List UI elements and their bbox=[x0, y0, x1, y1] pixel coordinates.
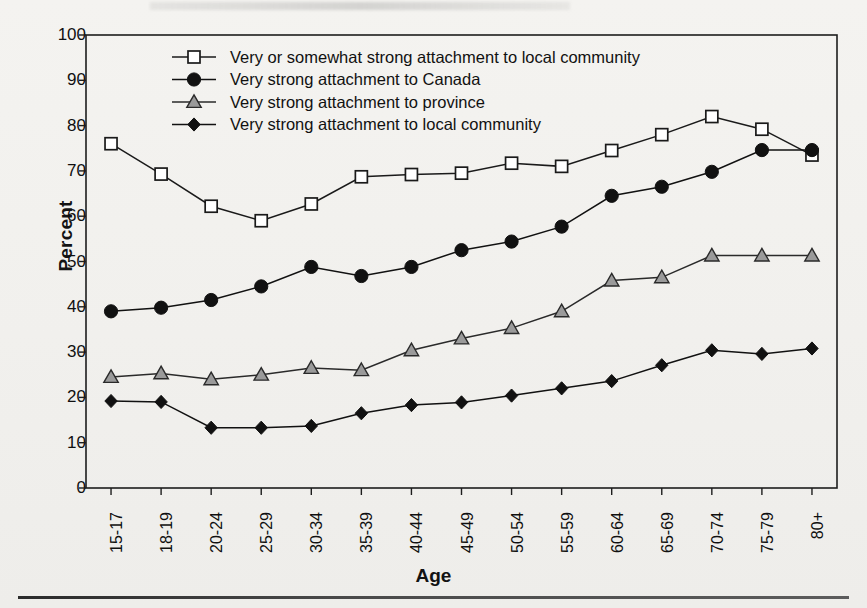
data-point-triangle bbox=[655, 270, 669, 283]
data-point-circle bbox=[505, 235, 518, 248]
data-point-triangle bbox=[304, 361, 318, 374]
data-point-circle bbox=[205, 293, 218, 306]
data-point-triangle bbox=[755, 248, 769, 261]
data-point-diamond bbox=[105, 394, 117, 407]
series-line bbox=[111, 256, 812, 380]
data-point-triangle bbox=[805, 248, 819, 261]
data-point-square bbox=[506, 157, 518, 169]
data-point-diamond bbox=[706, 344, 718, 357]
footer-rule bbox=[18, 596, 849, 599]
chart-legend: Very or somewhat strong attachment to lo… bbox=[172, 48, 641, 134]
data-point-triangle bbox=[154, 366, 168, 379]
data-point-square bbox=[405, 169, 417, 181]
data-point-square bbox=[305, 198, 317, 210]
data-point-diamond bbox=[606, 374, 618, 387]
figure-canvas: Percent Age 0102030405060708090100 15-17… bbox=[0, 0, 867, 608]
data-point-square bbox=[188, 51, 200, 63]
data-point-square bbox=[756, 123, 768, 135]
data-point-square bbox=[155, 168, 167, 180]
series-line bbox=[111, 348, 812, 427]
data-point-circle bbox=[655, 180, 668, 193]
data-point-circle bbox=[187, 73, 200, 86]
data-point-diamond bbox=[555, 382, 567, 395]
data-point-diamond bbox=[756, 347, 768, 360]
data-point-circle bbox=[455, 244, 468, 257]
data-point-circle bbox=[355, 269, 368, 282]
data-point-square bbox=[205, 200, 217, 212]
data-point-square bbox=[456, 167, 468, 179]
data-point-diamond bbox=[188, 118, 200, 131]
data-point-circle bbox=[305, 260, 318, 273]
data-point-triangle bbox=[187, 95, 201, 108]
legend-label-0: Very or somewhat strong attachment to lo… bbox=[230, 48, 641, 66]
data-point-square bbox=[105, 138, 117, 150]
data-point-circle bbox=[555, 220, 568, 233]
data-point-square bbox=[706, 111, 718, 123]
legend-label-2: Very strong attachment to province bbox=[230, 93, 485, 111]
data-point-diamond bbox=[255, 421, 267, 434]
data-point-diamond bbox=[806, 342, 818, 355]
data-point-square bbox=[656, 129, 668, 141]
data-point-triangle bbox=[554, 304, 568, 317]
data-point-circle bbox=[805, 143, 818, 156]
data-point-diamond bbox=[656, 359, 668, 372]
data-point-circle bbox=[755, 143, 768, 156]
data-point-diamond bbox=[155, 395, 167, 408]
data-point-square bbox=[606, 145, 618, 157]
data-point-circle bbox=[155, 301, 168, 314]
data-point-diamond bbox=[305, 419, 317, 432]
data-point-circle bbox=[255, 280, 268, 293]
data-point-diamond bbox=[355, 407, 367, 420]
data-point-diamond bbox=[455, 396, 467, 409]
legend-label-1: Very strong attachment to Canada bbox=[230, 70, 481, 88]
data-point-diamond bbox=[405, 399, 417, 412]
line-chart-plot: Very or somewhat strong attachment to lo… bbox=[0, 0, 867, 608]
data-point-circle bbox=[705, 165, 718, 178]
data-point-square bbox=[556, 160, 568, 172]
data-point-triangle bbox=[705, 248, 719, 261]
data-point-square bbox=[255, 215, 267, 227]
data-point-circle bbox=[405, 260, 418, 273]
data-point-circle bbox=[605, 189, 618, 202]
series-3 bbox=[105, 342, 818, 434]
data-point-diamond bbox=[505, 389, 517, 402]
data-point-circle bbox=[104, 305, 117, 318]
series-2 bbox=[104, 248, 819, 384]
data-point-square bbox=[355, 171, 367, 183]
data-point-diamond bbox=[205, 421, 217, 434]
legend-label-3: Very strong attachment to local communit… bbox=[230, 115, 542, 133]
